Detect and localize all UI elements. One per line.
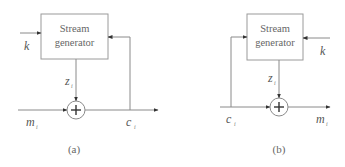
output-sub-a: i bbox=[134, 124, 136, 130]
diagram-b: Stream generator k z i c i m i (b) bbox=[220, 14, 330, 156]
diagram-canvas: Stream generator k z i m i c i (a) Strea… bbox=[0, 0, 345, 167]
input-label-b: c bbox=[226, 112, 232, 126]
keystream-label-a: z bbox=[64, 74, 70, 88]
keystream-sub-b: i bbox=[274, 80, 276, 86]
block-label-line1-b: Stream bbox=[260, 23, 290, 34]
output-sub-b: i bbox=[326, 121, 328, 127]
output-label-a: c bbox=[126, 115, 132, 129]
caption-a: (a) bbox=[68, 143, 81, 156]
keystream-sub-a: i bbox=[71, 83, 73, 89]
block-label-line2-a: generator bbox=[55, 37, 95, 48]
input-sub-a: i bbox=[36, 124, 38, 130]
caption-b: (b) bbox=[273, 143, 286, 156]
block-label-line1-a: Stream bbox=[60, 23, 90, 34]
block-label-line2-b: generator bbox=[255, 37, 295, 48]
input-sub-b: i bbox=[234, 121, 236, 127]
output-label-b: m bbox=[316, 112, 325, 126]
feedback-arrow-a bbox=[108, 37, 130, 110]
diagram-a: Stream generator k z i m i c i (a) bbox=[18, 14, 158, 156]
feedforward-arrow-b bbox=[231, 37, 247, 107]
key-label-a: k bbox=[24, 39, 30, 53]
key-label-b: k bbox=[320, 44, 326, 58]
input-label-a: m bbox=[26, 115, 35, 129]
keystream-label-b: z bbox=[267, 71, 273, 85]
